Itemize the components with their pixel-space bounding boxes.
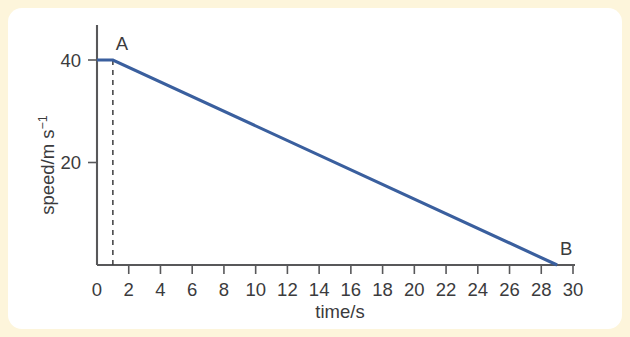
x-tick-label: 6	[187, 279, 197, 300]
point-label-b: B	[560, 238, 572, 259]
x-tick-label: 14	[309, 279, 330, 300]
x-tick-label: 12	[277, 279, 298, 300]
x-tick-label: 16	[341, 279, 362, 300]
x-tick-label: 2	[124, 279, 134, 300]
series-line-speed	[97, 60, 557, 265]
x-tick-label: 30	[563, 279, 584, 300]
x-tick-label: 28	[531, 279, 552, 300]
x-tick-label: 20	[404, 279, 425, 300]
y-axis-tick-labels: 2040	[60, 50, 81, 174]
x-tick-label: 18	[372, 279, 393, 300]
x-tick-label: 0	[92, 279, 102, 300]
y-axis-title-main: speed/m s	[37, 129, 58, 214]
x-tick-label: 10	[245, 279, 266, 300]
x-tick-label: 22	[436, 279, 457, 300]
x-axis-title: time/s	[315, 301, 364, 322]
x-axis-tick-labels: 024681012141618202224262830	[92, 279, 583, 300]
y-axis-ticks	[88, 60, 97, 163]
point-label-a: A	[116, 33, 129, 54]
x-axis-ticks	[129, 265, 573, 274]
data-series	[97, 60, 557, 265]
x-tick-label: 8	[219, 279, 229, 300]
point-annotations: AB	[116, 33, 573, 259]
y-axis-title-exponent: −1	[36, 115, 50, 129]
y-tick-label: 20	[60, 152, 81, 173]
x-tick-label: 24	[468, 279, 489, 300]
x-tick-label: 26	[499, 279, 520, 300]
y-tick-label: 40	[60, 50, 81, 71]
y-axis-title: speed/m s−1	[36, 115, 58, 215]
x-tick-label: 4	[155, 279, 165, 300]
speed-time-graph: 024681012141618202224262830 2040 AB time…	[0, 0, 630, 337]
